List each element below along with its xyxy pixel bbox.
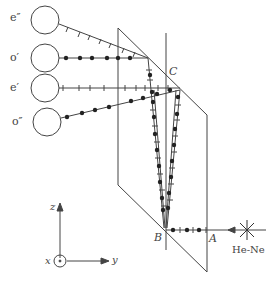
label-axis-x: x bbox=[45, 256, 51, 266]
y-arrow-icon bbox=[101, 258, 109, 264]
label-o1: o′ bbox=[10, 52, 19, 63]
detector-e2 bbox=[31, 6, 59, 34]
label-point-b: B bbox=[154, 232, 162, 243]
label-point-c: C bbox=[169, 66, 177, 77]
detector-o2 bbox=[33, 108, 61, 136]
beam-arrow-icon bbox=[228, 227, 235, 233]
label-source: He-Ne bbox=[232, 245, 265, 255]
diagram-canvas bbox=[0, 0, 276, 281]
label-o2: o″ bbox=[12, 116, 23, 127]
ray-b-to-left bbox=[148, 58, 164, 228]
label-axis-z: z bbox=[50, 202, 55, 212]
label-e1: e′ bbox=[10, 82, 19, 93]
ray-b-to-left-2 bbox=[154, 90, 165, 228]
z-arrow-icon bbox=[57, 203, 63, 211]
label-axis-y: y bbox=[112, 255, 118, 265]
detector-o1 bbox=[31, 44, 59, 72]
label-point-a: A bbox=[209, 233, 217, 244]
ray-o2 bbox=[61, 90, 180, 118]
crystal-plane bbox=[118, 28, 207, 272]
label-e2: e″ bbox=[10, 12, 21, 23]
detector-e1 bbox=[31, 74, 59, 102]
